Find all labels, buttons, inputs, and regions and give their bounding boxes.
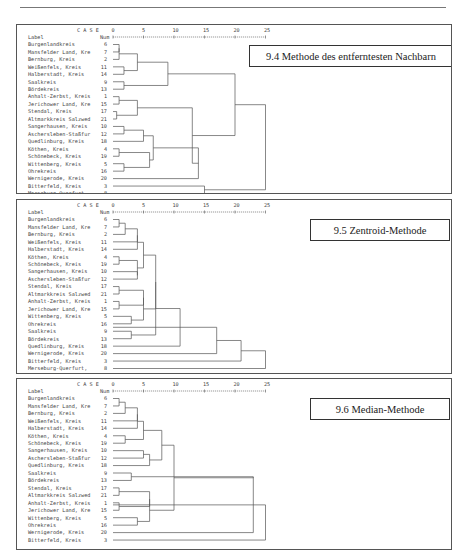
leaf-num: 11 bbox=[101, 64, 107, 70]
leaf-num: 10 bbox=[101, 123, 107, 129]
leaf-num: 16 bbox=[101, 321, 107, 327]
leaf-num: 21 bbox=[101, 291, 107, 297]
leaf-num: 9 bbox=[104, 470, 107, 476]
leaf-num: 19 bbox=[101, 440, 107, 446]
leaf-label: Altmarkkreis Salzwed bbox=[28, 116, 90, 122]
leaf-label: Sangerhausen, Kreis bbox=[28, 268, 87, 275]
leaf-num: 2 bbox=[104, 56, 107, 62]
leaf-label: Köthen, Kreis bbox=[28, 433, 69, 439]
leaf-label: Aschersleben-Staßfur bbox=[28, 131, 90, 137]
leaf-num: 1 bbox=[104, 93, 107, 99]
label-header: Label bbox=[28, 209, 44, 215]
leaf-label: Halberstadt, Kreis bbox=[28, 71, 84, 77]
leaf-num: 4 bbox=[104, 254, 107, 260]
leaf-label: Ohrekreis bbox=[28, 522, 56, 528]
leaf-label: Ohrekreis bbox=[28, 168, 56, 174]
leaf-label: Bördekreis bbox=[28, 86, 59, 92]
leaf-num: 10 bbox=[101, 447, 107, 453]
leaf-num: 5 bbox=[104, 515, 107, 521]
leaf-num: 7 bbox=[104, 403, 107, 409]
leaf-num: 13 bbox=[101, 477, 107, 483]
leaf-label: Anhalt-Zerbst, Kreis bbox=[28, 93, 90, 99]
axis-tick-label: 20 bbox=[234, 202, 240, 208]
leaf-num: 10 bbox=[101, 268, 107, 274]
leaf-label: Ohrekreis bbox=[28, 321, 56, 327]
axis-tick-label: 0 bbox=[112, 381, 115, 387]
leaf-num: 1 bbox=[104, 500, 107, 506]
leaf-label: Merseburg-Querfurt, bbox=[28, 365, 87, 372]
label-header: Label bbox=[28, 388, 44, 394]
method-title: 9.5 Zentroid-Methode bbox=[334, 225, 427, 236]
leaf-num: 9 bbox=[104, 328, 107, 334]
leaf-label: Burgenlandkreis bbox=[28, 216, 75, 223]
leaf-label: Anhalt-Zerbst, Kreis bbox=[28, 500, 90, 506]
axis-tick-label: 10 bbox=[173, 202, 179, 208]
leaf-label: Weißenfels, Kreis bbox=[28, 64, 81, 70]
leaf-num: 19 bbox=[101, 153, 107, 159]
leaf-label: Anhalt-Zerbst, Kreis bbox=[28, 298, 90, 304]
axis-tick-label: 5 bbox=[142, 27, 145, 33]
leaf-num: 14 bbox=[101, 425, 107, 431]
leaf-num: 5 bbox=[104, 161, 107, 167]
leaf-num: 17 bbox=[101, 485, 107, 491]
leaf-num: 3 bbox=[104, 537, 107, 543]
leaf-label: Saalkreis bbox=[28, 470, 56, 476]
leaf-label: Aschersleben-Staßfur bbox=[28, 276, 90, 282]
dendrogram-panel-complete-linkage: C A S ELabelNum0510152025Burgenlandkreis… bbox=[16, 24, 452, 194]
leaf-label: Jerichower Land, Kre bbox=[28, 507, 90, 513]
leaf-label: Wernigerode, Kreis bbox=[28, 529, 84, 536]
leaf-num: 20 bbox=[101, 175, 107, 181]
leaf-num: 18 bbox=[101, 343, 107, 349]
case-header: C A S E bbox=[77, 27, 99, 33]
leaf-num: 21 bbox=[101, 492, 107, 498]
leaf-label: Saalkreis bbox=[28, 79, 56, 85]
leaf-num: 3 bbox=[104, 358, 107, 364]
axis-tick-label: 10 bbox=[173, 381, 179, 387]
leaf-label: Stendal, Kreis bbox=[28, 485, 72, 491]
leaf-label: Mansfelder Land, Kre bbox=[28, 49, 90, 55]
leaf-label: Weißenfels, Kreis bbox=[28, 418, 81, 424]
axis-tick-label: 20 bbox=[234, 27, 240, 33]
leaf-num: 20 bbox=[101, 350, 107, 356]
page-header-rule bbox=[20, 7, 446, 8]
leaf-num: 2 bbox=[104, 231, 107, 237]
label-header: Label bbox=[28, 34, 44, 40]
method-title-box: 9.4 Methode des entferntesten Nachbarn bbox=[249, 45, 452, 67]
leaf-num: 11 bbox=[101, 418, 107, 424]
leaf-label: Quedlinburg, Kreis bbox=[28, 138, 84, 145]
leaf-num: 4 bbox=[104, 433, 107, 439]
method-title: 9.6 Median-Methode bbox=[336, 404, 425, 415]
leaf-label: Halberstadt, Kreis bbox=[28, 246, 84, 252]
leaf-label: Bernburg, Kreis bbox=[28, 56, 75, 63]
leaf-label: Stendal, Kreis bbox=[28, 108, 72, 114]
leaf-label: Bernburg, Kreis bbox=[28, 231, 75, 238]
leaf-num: 12 bbox=[101, 131, 107, 137]
leaf-num: 21 bbox=[101, 116, 107, 122]
leaf-num: 2 bbox=[104, 410, 107, 416]
leaf-num: 14 bbox=[101, 71, 107, 77]
dendrogram-panel-centroid: C A S ELabelNum0510152025Burgenlandkreis… bbox=[16, 199, 452, 374]
leaf-num: 13 bbox=[101, 86, 107, 92]
leaf-num: 9 bbox=[104, 79, 107, 85]
leaf-label: Köthen, Kreis bbox=[28, 254, 69, 260]
leaf-num: 14 bbox=[101, 246, 107, 252]
axis-tick-label: 0 bbox=[112, 27, 115, 33]
leaf-num: 17 bbox=[101, 108, 107, 114]
leaf-num: 12 bbox=[101, 455, 107, 461]
num-header: Num bbox=[100, 34, 109, 40]
axis-tick-label: 5 bbox=[142, 202, 145, 208]
leaf-num: 18 bbox=[101, 138, 107, 144]
leaf-num: 12 bbox=[101, 276, 107, 282]
leaf-label: Quedlinburg, Kreis bbox=[28, 462, 84, 469]
method-title-box: 9.6 Median-Methode bbox=[310, 398, 450, 420]
leaf-num: 15 bbox=[101, 507, 107, 513]
leaf-label: Halberstadt, Kreis bbox=[28, 425, 84, 431]
leaf-label: Wernigerode, Kreis bbox=[28, 350, 84, 357]
axis-tick-label: 20 bbox=[234, 381, 240, 387]
leaf-label: Wittenberg, Kreis bbox=[28, 515, 81, 522]
num-header: Num bbox=[100, 209, 109, 215]
leaf-label: Bitterfeld, Kreis bbox=[28, 183, 81, 189]
dendrogram-panel-median: C A S ELabelNum0510152025Burgenlandkreis… bbox=[16, 378, 452, 550]
leaf-label: Saalkreis bbox=[28, 328, 56, 334]
leaf-label: Schönebeck, Kreis bbox=[28, 261, 81, 267]
